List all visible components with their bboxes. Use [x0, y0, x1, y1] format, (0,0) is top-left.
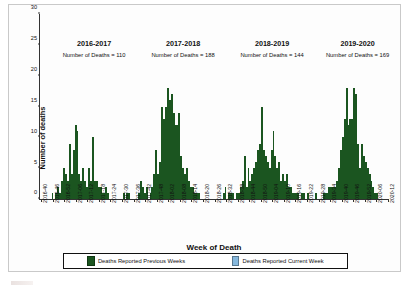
x-axis-tick-label: 2018-38: [240, 183, 245, 202]
x-axis-tick-label: 2017-18: [101, 183, 106, 202]
legend-swatch-current-week: [232, 256, 240, 266]
season-death-count: Number of Deaths = 144: [240, 52, 303, 58]
legend-item-current-week: Deaths Reported Current Week: [232, 256, 324, 266]
season-annotation: 2018-2019Number of Deaths = 144: [240, 39, 303, 58]
season-annotation: 2017-2018Number of Deaths = 188: [151, 39, 214, 58]
season-death-count: Number of Deaths = 188: [151, 52, 214, 58]
x-axis-tick-label: 2017-36: [136, 183, 141, 202]
y-axis-tick-label: 0: [34, 191, 37, 197]
x-axis-tick-label: 2017-42: [147, 183, 152, 202]
legend-swatch-previous-weeks: [87, 256, 95, 266]
x-axis-tick-label: 2019-40: [344, 183, 349, 202]
x-axis-tick-label: 2018-20: [205, 183, 210, 202]
chart-figure: Number of deaths 051015202530 2016-40201…: [8, 4, 401, 272]
x-axis-tick-label: 2020-06: [378, 183, 383, 202]
y-axis-tick-label: 25: [31, 36, 37, 42]
x-axis-tick-label: 2019-34: [332, 183, 337, 202]
x-axis-tick-label: 2018-44: [251, 183, 256, 202]
x-axis-tick-label: 2019-46: [355, 183, 360, 202]
chart-legend: Deaths Reported Previous Weeks Deaths Re…: [63, 253, 348, 269]
x-axis-tick-label: 2018-02: [170, 183, 175, 202]
x-axis-tick-label: 2020-12: [390, 183, 395, 202]
x-axis-tick-label: 2019-16: [297, 183, 302, 202]
x-axis-tick-label: 2016-52: [66, 183, 71, 202]
season-label: 2017-2018: [151, 39, 214, 48]
season-label: 2019-2020: [326, 39, 389, 48]
x-axis-tick-label: 2019-04: [274, 183, 279, 202]
x-axis-tick-label: 2018-32: [228, 183, 233, 202]
y-axis-tick-label: 30: [31, 6, 37, 12]
legend-item-previous-weeks: Deaths Reported Previous Weeks: [87, 256, 185, 266]
x-axis-title: Week of Death: [39, 243, 389, 252]
season-label: 2018-2019: [240, 39, 303, 48]
page-artifact: [11, 281, 33, 285]
x-axis-tick-label: 2019-52: [367, 183, 372, 202]
legend-label-previous-weeks: Deaths Reported Previous Weeks: [98, 258, 185, 264]
x-axis-tick-label: 2016-40: [43, 183, 48, 202]
x-axis-tick-label: 2018-08: [182, 183, 187, 202]
season-label: 2016-2017: [63, 39, 126, 48]
x-axis-tick-label: 2017-12: [89, 183, 94, 202]
y-axis-tick-label: 20: [31, 67, 37, 73]
y-axis-tick-label: 5: [34, 160, 37, 166]
plot-area: 051015202530 2016-402016-462016-522017-0…: [39, 14, 389, 200]
season-annotation: 2019-2020Number of Deaths = 169: [326, 39, 389, 58]
x-axis-tick-label: 2017-24: [112, 183, 117, 202]
y-axis-tick-label: 15: [31, 98, 37, 104]
x-axis-tick-label: 2017-48: [159, 183, 164, 202]
y-axis-tick-label: 10: [31, 129, 37, 135]
x-axis-tick-label: 2018-26: [217, 183, 222, 202]
x-axis-tick-label: 2016-46: [55, 183, 60, 202]
x-axis-tick-label: 2017-30: [124, 183, 129, 202]
season-annotation: 2016-2017Number of Deaths = 110: [63, 39, 126, 58]
x-axis-tick-label: 2017-06: [78, 183, 83, 202]
x-axis-tick-label: 2019-22: [309, 183, 314, 202]
x-axis-tick-label: 2019-28: [321, 183, 326, 202]
legend-label-current-week: Deaths Reported Current Week: [242, 258, 323, 264]
x-axis-tick-label: 2018-50: [263, 183, 268, 202]
x-axis-tick-label: 2018-14: [193, 183, 198, 202]
season-death-count: Number of Deaths = 110: [63, 52, 126, 58]
x-axis-tick-label: 2019-10: [286, 183, 291, 202]
season-death-count: Number of Deaths = 169: [326, 52, 389, 58]
